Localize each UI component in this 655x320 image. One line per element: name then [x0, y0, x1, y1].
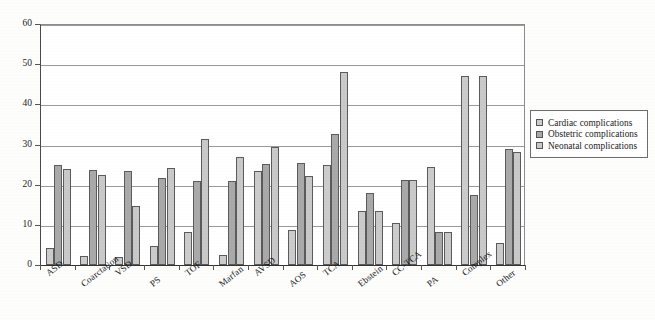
legend-item-obstetric: Obstetric complications [536, 129, 641, 139]
legend-swatch-neonatal-icon [536, 142, 543, 149]
x-tick-mark [352, 265, 353, 270]
x-axis-label-avsd: AVSD [252, 255, 277, 278]
x-axis-label-marfan: Marfan [217, 264, 245, 289]
x-axis-label-cc-tca: CC-TCA [390, 249, 423, 278]
x-axis-label-ps: PS [148, 275, 162, 289]
x-tick-mark [75, 265, 76, 270]
x-axis-label-tof: TOF [183, 259, 203, 278]
x-tick-mark [525, 265, 526, 270]
legend-label-neonatal: Neonatal complications [548, 141, 637, 151]
x-tick-mark [283, 265, 284, 270]
x-tick-mark [248, 265, 249, 270]
x-tick-mark [490, 265, 491, 270]
legend-label-cardiac: Cardiac complications [548, 118, 632, 128]
x-axis-label-asd: ASD [44, 258, 65, 277]
x-tick-mark [40, 265, 41, 270]
x-axis-label-complex: Complex [460, 249, 494, 278]
legend-item-neonatal: Neonatal complications [536, 141, 641, 151]
legend: Cardiac complications Obstetric complica… [530, 110, 648, 158]
x-tick-mark [386, 265, 387, 270]
x-axis-label-pa: PA [425, 274, 440, 289]
x-axis-label-ebstein: Ebstein [356, 263, 385, 288]
x-tick-mark [456, 265, 457, 270]
x-axis-label-aos: AOS [287, 269, 308, 288]
legend-swatch-cardiac-icon [536, 119, 543, 126]
x-tick-mark [144, 265, 145, 270]
x-axis-label-other: Other [494, 268, 517, 289]
x-tick-mark [213, 265, 214, 270]
x-tick-mark [317, 265, 318, 270]
chart-figure: 0102030405060 ASDCoarctationVSDPSTOFMarf… [0, 0, 655, 320]
legend-swatch-obstetric-icon [536, 131, 543, 138]
x-tick-mark [109, 265, 110, 270]
x-axis-label-tca: TCA [321, 258, 342, 277]
x-tick-mark [179, 265, 180, 270]
legend-label-obstetric: Obstetric complications [548, 129, 638, 139]
x-axis-labels: ASDCoarctationVSDPSTOFMarfanAVSDAOSTCAEb… [0, 0, 655, 320]
x-tick-mark [421, 265, 422, 270]
legend-item-cardiac: Cardiac complications [536, 118, 641, 128]
